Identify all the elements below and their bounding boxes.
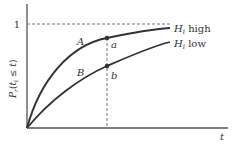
point-a: [105, 36, 110, 41]
label-a: a: [111, 39, 117, 50]
label-B: B: [76, 67, 84, 78]
x-axis-label: t: [220, 131, 225, 142]
legend-low: Hi low: [173, 38, 206, 51]
curve-low: [27, 42, 170, 128]
curve-high: [27, 28, 170, 128]
tick-one-label: 1: [14, 19, 20, 30]
label-b: b: [111, 70, 117, 81]
label-A: A: [76, 36, 84, 47]
point-b: [105, 64, 110, 69]
cdf-diagram: 1 A B a b Hi high Hi low t Pr(ti ≤ t): [0, 0, 236, 146]
y-axis-label: Pr(ti ≤ t): [8, 60, 19, 99]
legend-high: Hi high: [173, 23, 211, 36]
